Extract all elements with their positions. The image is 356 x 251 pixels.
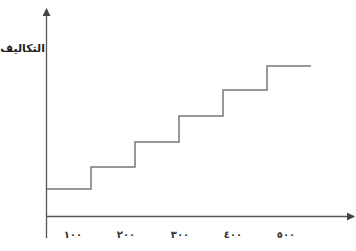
x-tick-200: ٢٠٠ — [106, 229, 146, 240]
x-tick-500: ٥٠٠ — [266, 229, 306, 240]
x-tick-300: ٣٠٠ — [160, 229, 200, 240]
cost-step-line — [47, 66, 311, 189]
x-tick-100: ١٠٠ — [53, 229, 93, 240]
x-tick-400: ٤٠٠ — [213, 229, 253, 240]
y-axis-label: التكاليف — [1, 42, 45, 55]
step-cost-chart — [0, 0, 356, 251]
